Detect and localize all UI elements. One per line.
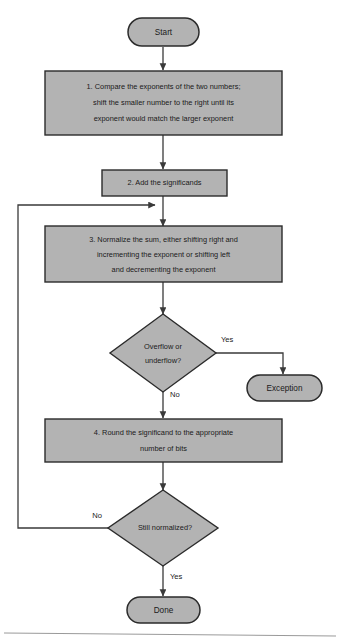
node-step4[interactable]: 4. Round the significand to the appropri… [45,419,282,462]
node-decision-overflow-line1: Overflow or [144,342,182,351]
flowchart-svg: Start 1. Compare the exponents of the tw… [0,0,340,644]
page-bottom-rule [4,633,336,636]
node-step1-line2: shift the smaller number to the right un… [93,98,234,107]
node-step3[interactable]: 3. Normalize the sum, either shifting ri… [45,226,282,282]
edge-label-overflow-yes: Yes [221,335,234,344]
node-start[interactable]: Start [128,18,199,46]
node-step4-line1: 4. Round the significand to the appropri… [94,428,233,437]
connector-overflow-yes-to-exception [216,353,283,374]
node-exception-label: Exception [267,384,303,393]
node-decision-normalized[interactable]: Still normalized? [108,490,218,566]
node-step3-line2: incrementing the exponent or shifting le… [97,250,230,259]
node-decision-overflow[interactable]: Overflow or underflow? [110,314,216,392]
node-step3-line1: 3. Normalize the sum, either shifting ri… [89,235,238,244]
node-decision-normalized-line1: Still normalized? [138,523,192,532]
node-step4-line2: number of bits [140,444,187,453]
node-decision-overflow-line2: underflow? [145,356,181,365]
edge-label-overflow-no: No [170,390,180,399]
node-exception[interactable]: Exception [247,375,322,401]
node-step2-line1: 2. Add the significands [128,178,202,187]
node-step3-line3: and decrementing the exponent [112,265,216,274]
node-done-label: Done [154,606,174,615]
edge-label-normalized-yes: Yes [170,572,183,581]
node-start-label: Start [155,28,173,37]
node-step1-line3: exponent would match the larger exponent [94,114,234,123]
node-step1-line1: 1. Compare the exponents of the two numb… [86,82,240,91]
node-done[interactable]: Done [127,597,200,623]
edge-label-normalized-no: No [92,511,102,520]
node-step1[interactable]: 1. Compare the exponents of the two numb… [45,71,282,135]
flowchart-canvas: Start 1. Compare the exponents of the tw… [0,0,340,644]
node-step2[interactable]: 2. Add the significands [102,170,227,196]
